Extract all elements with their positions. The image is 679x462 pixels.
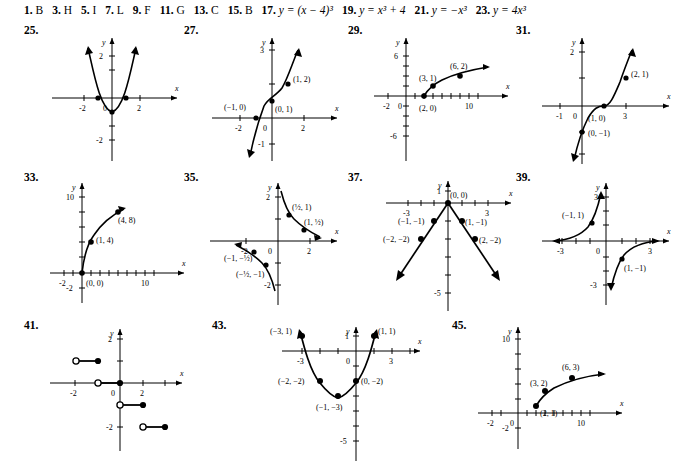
- graph-plot-37: (0, 0) (−1, −1) (1, −1) (−2, −2) (2, −2)…: [366, 173, 521, 318]
- open-endpoint: [117, 402, 123, 408]
- y-tick-label: -2: [502, 424, 509, 433]
- data-point: [430, 83, 436, 89]
- x-axis-label: x: [666, 92, 671, 101]
- point-label: (6, 2): [450, 62, 468, 71]
- y-axis-label: y: [267, 183, 272, 192]
- closed-endpoint: [117, 380, 123, 386]
- x-tick-label: 2: [140, 389, 144, 398]
- y-tick-label: 2: [570, 48, 574, 57]
- point-label: (4, 8): [118, 216, 136, 225]
- point-label: (−2, −2): [383, 235, 410, 244]
- origin-label: 0: [346, 357, 350, 366]
- answer-item-13: 13. C: [194, 4, 219, 16]
- origin-label: 0: [111, 389, 115, 398]
- graph-cell-31: 31. (1, 0) (0, −1) (2, 1) -1 3: [516, 24, 676, 179]
- point-label: (−1, −½): [224, 254, 253, 263]
- open-endpoint: [140, 424, 146, 430]
- graph-number-27: 27.: [184, 24, 198, 36]
- data-point: [269, 98, 274, 103]
- open-endpoint: [73, 358, 79, 364]
- point-label: (1, −1): [624, 264, 646, 273]
- point-label: (0, 1): [275, 105, 293, 114]
- data-point: [88, 239, 94, 245]
- answer-item-21: 21. y = −x³: [415, 4, 467, 16]
- y-tick-label: -2: [66, 284, 73, 293]
- answer-item-15: 15. B: [228, 4, 253, 16]
- y-tick-label: -6: [390, 132, 397, 141]
- x-tick-label: 10: [141, 279, 149, 288]
- y-tick-label: 2: [99, 52, 103, 61]
- data-point: [619, 256, 624, 261]
- data-point: [253, 115, 258, 120]
- graph-number-41: 41.: [24, 319, 38, 331]
- answer-item-5: 5. I: [81, 4, 96, 16]
- data-point: [533, 403, 539, 409]
- data-point: [371, 333, 377, 339]
- closed-endpoint: [162, 424, 168, 430]
- point-label: (1, 0): [588, 114, 606, 123]
- x-tick-label: -2: [241, 247, 248, 256]
- graph-number-35: 35.: [184, 171, 198, 183]
- graph-plot-41: -2 2 2 -2 0 x y: [42, 321, 202, 461]
- y-axis-label: y: [261, 38, 266, 47]
- origin-label: 0: [103, 104, 107, 113]
- data-point: [263, 262, 268, 267]
- data-point: [317, 378, 323, 384]
- graph-plot-43: (−3, 1) (−2, −2) (−1, −3) (0, −2) (1, 1)…: [230, 321, 430, 462]
- point-label: (1, 1): [378, 327, 396, 336]
- point-label: (0, 0): [86, 279, 104, 288]
- y-tick-label: -2: [106, 423, 113, 432]
- x-tick-label: 3: [648, 247, 652, 256]
- data-point: [445, 200, 451, 206]
- data-point: [109, 109, 114, 114]
- point-label: (−½, −1): [236, 270, 265, 279]
- y-tick-label: 10: [502, 335, 510, 344]
- point-label: (2, 0): [419, 104, 437, 113]
- x-tick-label: 3: [389, 357, 393, 366]
- graph-cell-39: 39. (−1, 1): [516, 171, 676, 321]
- data-point: [115, 209, 121, 215]
- x-axis-label: x: [417, 337, 422, 346]
- graph-cell-27: 27. (−1, 0) (0, 1) (1, 2) -2 2: [184, 24, 344, 179]
- origin-label: 0: [398, 102, 402, 111]
- answer-item-17: 17. y = (x − 4)³: [262, 4, 333, 16]
- point-label: (0, −2): [361, 377, 383, 386]
- data-point: [95, 95, 100, 100]
- graph-number-37: 37.: [348, 171, 362, 183]
- x-tick-label: -1: [556, 112, 563, 121]
- graph-cell-37: 37.: [348, 171, 516, 321]
- x-axis-label: x: [508, 189, 513, 198]
- data-point: [299, 333, 305, 339]
- x-tick-label: 3: [623, 112, 627, 121]
- point-label: (0, 0): [450, 191, 468, 200]
- closed-endpoint: [95, 358, 101, 364]
- data-point: [79, 270, 85, 276]
- x-tick-label: -3: [403, 209, 410, 218]
- point-label: (−1, 1): [562, 211, 584, 220]
- point-label: (−1, −1): [398, 217, 425, 226]
- point-label: (1, −1): [465, 218, 487, 227]
- x-tick-label: -2: [235, 124, 242, 133]
- y-axis-label: y: [109, 329, 114, 338]
- data-point: [579, 129, 584, 134]
- graph-grid: 25. -2 2 2 -2 0 x y: [0, 24, 679, 462]
- point-label: (3, 1): [419, 74, 437, 83]
- data-point: [301, 227, 306, 232]
- graph-plot-29: (2, 0) (3, 1) (6, 2) -2 10 6 -6 0 x y: [366, 26, 516, 171]
- open-endpoint: [95, 380, 101, 386]
- graph-number-33: 33.: [24, 171, 38, 183]
- y-tick-label: -1: [258, 140, 265, 149]
- point-label: (−2, −2): [278, 377, 305, 386]
- graph-number-25: 25.: [24, 24, 38, 36]
- x-axis-label: x: [666, 227, 671, 236]
- answer-item-23: 23. y = 4x³: [476, 4, 526, 16]
- y-axis-label: y: [101, 38, 106, 47]
- origin-label: 0: [268, 247, 272, 256]
- data-point: [353, 378, 359, 384]
- data-point: [457, 73, 463, 79]
- x-axis-label: x: [505, 82, 510, 91]
- y-axis-label: y: [345, 327, 350, 336]
- x-axis-label: x: [334, 104, 339, 113]
- graph-number-45: 45.: [452, 319, 466, 331]
- graph-cell-45: 45. (2, 1) (3, 2): [452, 319, 672, 462]
